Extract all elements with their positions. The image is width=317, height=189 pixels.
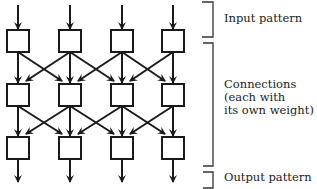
output-bracket — [203, 172, 213, 188]
connections-label-2: (each with — [224, 90, 285, 104]
unit-boxes — [7, 30, 184, 159]
connections-label-3: its own weight) — [224, 103, 314, 117]
connections-label-1: Connections — [224, 77, 296, 91]
input-pattern-label: Input pattern — [224, 11, 302, 25]
output-arrows — [18, 159, 173, 182]
connections-layer2 — [18, 106, 173, 136]
connections-bracket — [203, 43, 213, 166]
input-bracket — [202, 2, 213, 37]
connections-layer1 — [18, 52, 173, 83]
output-pattern-label: Output pattern — [224, 170, 312, 184]
input-arrows — [18, 5, 173, 29]
